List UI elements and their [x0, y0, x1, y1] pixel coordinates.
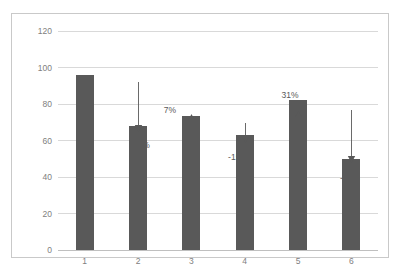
- bar[interactable]: [182, 116, 200, 250]
- y-axis-tick-label: 40: [43, 172, 52, 182]
- annotation-label: -29%: [130, 140, 150, 150]
- y-axis-tick-label: 80: [43, 99, 52, 109]
- annotation-arrow-down-icon: [134, 82, 143, 132]
- y-axis-tick-label: 120: [38, 26, 52, 36]
- bar[interactable]: [76, 75, 94, 250]
- x-axis-tick-label: 6: [349, 256, 354, 266]
- y-axis-tick-label: 60: [43, 136, 52, 146]
- y-axis-tick-label: 20: [43, 209, 52, 219]
- gridline: [58, 31, 378, 32]
- screenshot-root: 020406080100120123456-29%7%-15%31%-40%: [0, 0, 405, 272]
- y-axis-tick-label: 100: [38, 63, 52, 73]
- annotation-label: 7%: [164, 105, 176, 115]
- gridline: [58, 140, 378, 141]
- gridline: [58, 104, 378, 105]
- annotation-arrow-down-icon: [241, 123, 250, 143]
- gridline: [58, 67, 378, 68]
- chart-plot-area: 020406080100120123456-29%7%-15%31%-40%: [58, 31, 378, 250]
- x-axis-tick-label: 2: [136, 256, 141, 266]
- annotation-label: 31%: [281, 90, 298, 100]
- annotation-label: -15%: [228, 152, 248, 162]
- annotation-arrow-up-icon: [294, 111, 303, 147]
- x-axis-tick-label: 1: [82, 256, 87, 266]
- chart-frame: 020406080100120123456-29%7%-15%31%-40%: [11, 13, 389, 258]
- axis-line-zero: [58, 250, 378, 251]
- x-axis-tick-label: 4: [242, 256, 247, 266]
- y-axis-tick-label: 0: [47, 245, 52, 255]
- x-axis-tick-label: 3: [189, 256, 194, 266]
- annotation-arrow-up-icon: [187, 114, 196, 127]
- gridline: [58, 213, 378, 214]
- x-axis-tick-label: 5: [296, 256, 301, 266]
- annotation-arrow-down-icon: [347, 110, 356, 163]
- annotation-label: -40%: [340, 173, 360, 183]
- gridline: [58, 177, 378, 178]
